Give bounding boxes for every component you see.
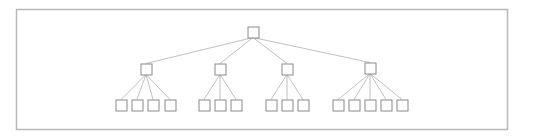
edge-child-leaf: [370, 74, 402, 100]
leaf-node: [231, 100, 242, 111]
edge-child-leaf: [204, 75, 220, 100]
leaf-node: [215, 100, 226, 111]
edge-root-child: [253, 38, 370, 63]
tree-diagram: [0, 0, 535, 136]
edge-child-leaf: [354, 74, 370, 100]
leaf-node: [165, 100, 176, 111]
leaf-node: [266, 100, 277, 111]
edge-child-leaf: [121, 75, 146, 100]
child-node: [282, 64, 293, 75]
child-node: [365, 63, 376, 74]
root-node: [248, 27, 259, 38]
leaf-node: [282, 100, 293, 111]
edge-child-leaf: [137, 75, 146, 100]
edge-child-leaf: [220, 75, 236, 100]
edge-child-leaf: [370, 74, 386, 100]
edge-child-leaf: [287, 75, 303, 100]
leaf-node: [132, 100, 143, 111]
leaf-node: [381, 100, 392, 111]
diagram-frame: [17, 10, 508, 130]
leaf-node: [199, 100, 210, 111]
leaf-node: [298, 100, 309, 111]
child-node: [141, 64, 152, 75]
child-node: [215, 64, 226, 75]
edge-child-leaf: [338, 74, 370, 100]
leaf-node: [365, 100, 376, 111]
leaf-node: [397, 100, 408, 111]
edge-child-leaf: [271, 75, 287, 100]
leaf-node: [148, 100, 159, 111]
leaf-node: [116, 100, 127, 111]
leaf-node: [333, 100, 344, 111]
leaf-node: [349, 100, 360, 111]
